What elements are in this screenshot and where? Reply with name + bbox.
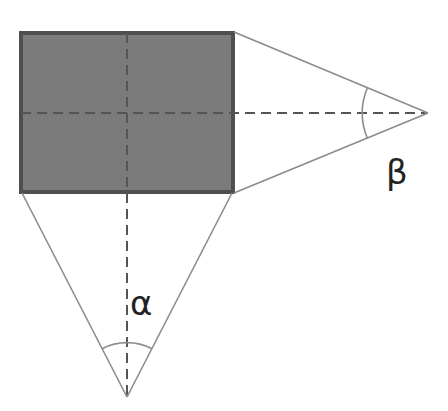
alpha-label: α (130, 283, 152, 323)
beta-ray-top (234, 32, 428, 113)
beta-label: β (386, 152, 408, 192)
alpha-ray-left (22, 193, 127, 397)
diagram-canvas: β α (0, 0, 448, 411)
